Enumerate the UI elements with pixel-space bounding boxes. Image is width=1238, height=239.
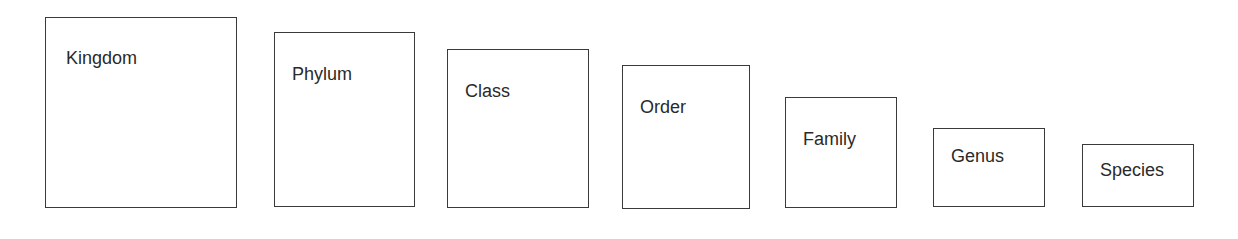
rank-box-class: Class	[447, 49, 589, 208]
rank-label: Kingdom	[66, 48, 137, 69]
rank-box-order: Order	[622, 65, 750, 209]
rank-box-family: Family	[785, 97, 897, 208]
rank-box-genus: Genus	[933, 128, 1045, 207]
rank-label: Phylum	[292, 64, 352, 85]
rank-label: Genus	[951, 146, 1004, 167]
rank-box-kingdom: Kingdom	[45, 17, 237, 208]
rank-box-phylum: Phylum	[274, 32, 415, 207]
rank-label: Family	[803, 129, 856, 150]
rank-label: Order	[640, 97, 686, 118]
rank-label: Species	[1100, 160, 1164, 181]
rank-box-species: Species	[1082, 144, 1194, 207]
rank-label: Class	[465, 81, 510, 102]
